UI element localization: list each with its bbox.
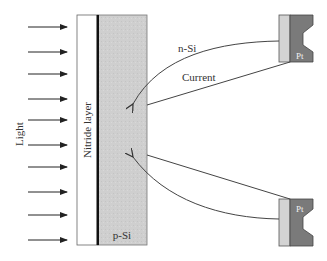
- photoelectrochemical-cell-diagram: Light Nitride layer p-Si Pt Pt n-Si Curr…: [0, 0, 327, 261]
- pt-electrode-top: Pt: [279, 15, 313, 62]
- p-si-label: p-Si: [113, 229, 131, 241]
- light-arrows: [28, 27, 67, 240]
- current-arrow-bottom-icon: [133, 157, 279, 219]
- pt-top-label: Pt: [296, 51, 304, 61]
- nitride-layer-label: Nitride layer: [81, 102, 93, 158]
- n-si-label: n-Si: [178, 42, 196, 54]
- external-circuit-line-top: [147, 62, 290, 105]
- junction-line: [97, 15, 100, 245]
- p-si-block: [98, 15, 147, 245]
- external-circuit-line-bottom: [147, 155, 290, 199]
- pt-bottom-label: Pt: [296, 204, 304, 214]
- current-label: Current: [182, 71, 216, 83]
- light-label: Light: [13, 122, 25, 146]
- pt-electrode-bottom: Pt: [279, 199, 313, 246]
